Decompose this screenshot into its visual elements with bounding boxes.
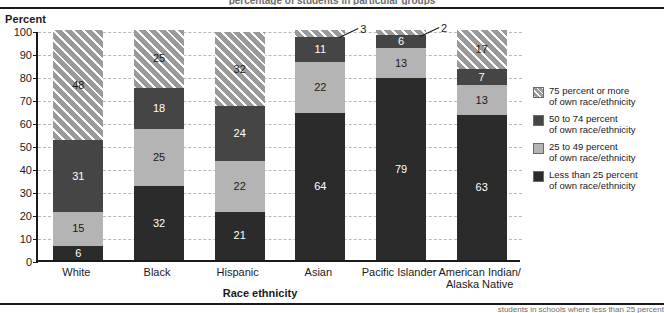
y-axis-tick-mark	[33, 55, 38, 56]
bar-segment[interactable]: 11	[295, 37, 345, 62]
legend-label-line: 50 to 74 percent	[549, 114, 636, 125]
legend-label-line: of own race/ethnicity	[549, 125, 636, 136]
y-axis-tick-label: 40	[2, 164, 32, 176]
bar-segment[interactable]: 7	[457, 69, 507, 85]
y-axis-title: Percent	[5, 13, 46, 25]
callout-label: 2	[441, 22, 447, 34]
y-axis-tick-label: 20	[2, 210, 32, 222]
bar-segment-value: 25	[153, 152, 165, 163]
bar-segment-value: 6	[75, 248, 81, 259]
bar-segment-value: 13	[476, 95, 488, 106]
gridline	[38, 170, 522, 171]
gridline	[38, 78, 522, 79]
bar-segment[interactable]: 31	[53, 140, 103, 211]
legend-swatch	[533, 143, 544, 154]
gridline	[38, 147, 522, 148]
bar-segment-value: 31	[72, 171, 84, 182]
bar-segment[interactable]: 6	[53, 246, 103, 260]
legend-label-line: of own race/ethnicity	[549, 181, 638, 192]
y-axis-tick-mark	[33, 170, 38, 171]
gridline	[38, 216, 522, 217]
legend-25-to-49[interactable]: 25 to 49 percentof own race/ethnicity	[533, 142, 661, 163]
plot-inner: 4831156251825323224222111226436137921771…	[38, 32, 520, 260]
y-axis-tick-label: 30	[2, 187, 32, 199]
y-axis-tick-mark	[33, 262, 38, 263]
bar-segment[interactable]: 13	[376, 48, 426, 78]
bar-pacific-islander[interactable]: 61379	[376, 30, 426, 260]
bar-segment[interactable]: 25	[134, 129, 184, 187]
y-axis-tick-label: 70	[2, 95, 32, 107]
bar-segment-value: 7	[479, 72, 485, 83]
legend-75-or-more[interactable]: 75 percent or moreof own race/ethnicity	[533, 86, 661, 107]
legend-label-line: 75 percent or more	[549, 86, 636, 97]
legend-label-line: of own race/ethnicity	[549, 97, 636, 108]
cropped-header-text: percentage of students in particular gro…	[0, 0, 664, 5]
bar-segment[interactable]: 48	[53, 30, 103, 140]
plot-area: 4831156251825323224222111226436137921771…	[36, 32, 520, 262]
legend-label-line: of own race/ethnicity	[549, 153, 636, 164]
bar-black[interactable]: 25182532	[134, 30, 184, 260]
bar-segment-value: 32	[153, 218, 165, 229]
bar-segment[interactable]	[295, 30, 345, 37]
bar-segment[interactable]: 63	[457, 115, 507, 260]
callout-label: 3	[360, 23, 366, 35]
y-axis-tick-label: 100	[2, 26, 32, 38]
y-axis-tick-label: 60	[2, 118, 32, 130]
chart-legend: 75 percent or moreof own race/ethnicity5…	[533, 86, 661, 198]
bar-segment-value: 21	[234, 230, 246, 241]
legend-swatch	[533, 171, 544, 182]
bar-asian[interactable]: 112264	[295, 30, 345, 260]
bar-segment[interactable]: 25	[134, 30, 184, 88]
gridline	[38, 239, 522, 240]
bar-segment[interactable]: 24	[215, 106, 265, 161]
y-axis-tick-mark	[33, 32, 38, 33]
legend-label-line: Less than 25 percent	[549, 170, 638, 181]
bar-hispanic[interactable]: 32242221	[215, 32, 265, 260]
bar-segment-value: 11	[315, 44, 326, 55]
bar-segment[interactable]: 79	[376, 78, 426, 260]
bar-white[interactable]: 4831156	[53, 30, 103, 260]
legend-swatch	[533, 87, 544, 98]
top-divider-rule	[0, 7, 664, 9]
y-axis-tick-mark	[33, 239, 38, 240]
y-axis-tick-mark	[33, 193, 38, 194]
bar-segment[interactable]: 22	[295, 62, 345, 113]
y-axis-tick-mark	[33, 147, 38, 148]
bar-segment[interactable]: 32	[215, 32, 265, 106]
legend-swatch	[533, 115, 544, 126]
bar-segment-value: 22	[234, 181, 246, 192]
bar-segment[interactable]: 64	[295, 113, 345, 260]
gridline	[38, 55, 522, 56]
bar-segment-value: 63	[476, 182, 488, 193]
bar-segment[interactable]: 22	[215, 161, 265, 212]
y-axis-tick-label: 50	[2, 141, 32, 153]
bar-segment[interactable]: 18	[134, 88, 184, 129]
bar-american-indian-alaska-native[interactable]: 1771363	[457, 30, 507, 260]
y-axis-tick-mark	[33, 216, 38, 217]
x-axis-category-label: American Indian/Alaska Native	[425, 266, 535, 290]
x-axis-category-label-line: Alaska Native	[425, 278, 535, 290]
bar-segment-value: 18	[153, 103, 165, 114]
bar-segment-value: 79	[395, 164, 407, 175]
bar-segment[interactable]: 32	[134, 186, 184, 260]
gridline	[38, 32, 522, 33]
bar-segment[interactable]: 21	[215, 212, 265, 260]
bar-segment[interactable]: 13	[457, 85, 507, 115]
gridline	[38, 101, 522, 102]
bar-segment-value: 32	[234, 64, 246, 75]
legend-label: Less than 25 percentof own race/ethnicit…	[549, 170, 638, 191]
bar-segment[interactable]: 17	[457, 30, 507, 69]
stacked-bar-chart-figure: percentage of students in particular gro…	[0, 0, 664, 313]
bar-segment-value: 64	[314, 181, 326, 192]
legend-50-to-74[interactable]: 50 to 74 percentof own race/ethnicity	[533, 114, 661, 135]
legend-label: 25 to 49 percentof own race/ethnicity	[549, 142, 636, 163]
bar-segment-value: 25	[153, 53, 165, 64]
legend-less-than-25[interactable]: Less than 25 percentof own race/ethnicit…	[533, 170, 661, 191]
bar-segment[interactable]: 6	[376, 35, 426, 49]
bar-segment[interactable]: 15	[53, 212, 103, 247]
gridline	[38, 193, 522, 194]
x-axis-category-label-line: American Indian/	[425, 266, 535, 278]
legend-label: 50 to 74 percentof own race/ethnicity	[549, 114, 636, 135]
bar-segment-value: 15	[72, 223, 84, 234]
y-axis-tick-label: 90	[2, 49, 32, 61]
